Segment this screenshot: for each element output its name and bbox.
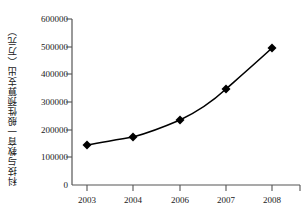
x-tick-label-2004: 2004 xyxy=(113,196,153,205)
x-axis-tick-labels: 2003 2004 2006 2007 2008 xyxy=(0,0,308,215)
x-tick-label-2003: 2003 xyxy=(67,196,107,205)
chart-container: 科技与教育一般性预算支出（万元） 600000 500000 400000 30… xyxy=(0,0,308,215)
x-tick-label-2007: 2007 xyxy=(206,196,246,205)
x-tick-label-2008: 2008 xyxy=(252,196,292,205)
x-tick-label-2006: 2006 xyxy=(160,196,200,205)
